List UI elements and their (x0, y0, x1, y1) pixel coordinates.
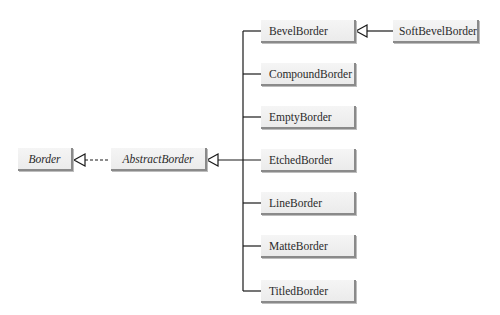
class-hierarchy-diagram: Border AbstractBorder BevelBorder Compou… (0, 0, 500, 315)
class-box-matteborder[interactable]: MatteBorder (261, 235, 356, 258)
connector-lines (0, 0, 500, 315)
class-name: AbstractBorder (122, 153, 193, 165)
class-name: TitledBorder (269, 285, 328, 297)
class-box-bevelborder[interactable]: BevelBorder (261, 20, 356, 43)
class-name: SoftBevelBorder (399, 25, 477, 37)
class-box-titledborder[interactable]: TitledBorder (261, 280, 356, 303)
class-name: LineBorder (269, 197, 322, 209)
generalization-arrow-softbevel (356, 25, 393, 37)
class-name: CompoundBorder (269, 68, 352, 80)
generalization-tree (207, 31, 261, 291)
class-name: BevelBorder (269, 25, 328, 37)
class-name: MatteBorder (269, 240, 328, 252)
class-box-etchedborder[interactable]: EtchedBorder (261, 149, 356, 172)
class-name: Border (28, 153, 60, 165)
class-box-emptyborder[interactable]: EmptyBorder (261, 106, 356, 129)
class-box-compoundborder[interactable]: CompoundBorder (261, 63, 356, 86)
class-box-abstractborder[interactable]: AbstractBorder (111, 148, 207, 171)
class-box-border[interactable]: Border (18, 148, 73, 171)
realization-arrow (74, 154, 110, 166)
class-name: EmptyBorder (269, 111, 332, 123)
class-box-softbevelborder[interactable]: SoftBevelBorder (393, 20, 479, 43)
class-name: EtchedBorder (269, 154, 333, 166)
class-box-lineborder[interactable]: LineBorder (261, 192, 356, 215)
